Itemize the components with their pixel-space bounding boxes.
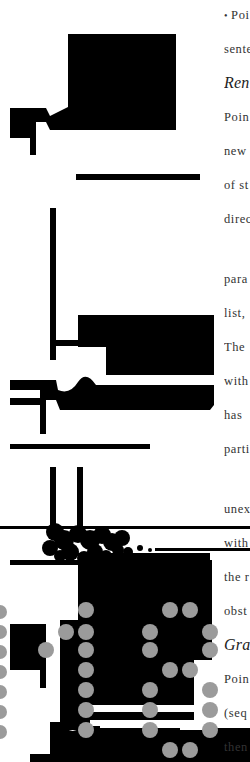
text-line: •Poi: [224, 8, 250, 23]
text-line: list,: [224, 306, 245, 321]
text-line: (seq: [224, 706, 247, 721]
text-line: para: [224, 272, 248, 287]
text-line: then: [224, 740, 248, 755]
text-line: sente: [224, 42, 250, 57]
text-line: The: [224, 340, 245, 355]
section-heading: Ren: [224, 74, 249, 92]
text-line: Poin: [224, 110, 249, 125]
text-line: direc: [224, 212, 250, 227]
text-line: obst: [224, 604, 247, 619]
section-heading: Gra: [224, 636, 250, 654]
text-line: Poin: [224, 672, 249, 687]
text-line: new: [224, 144, 247, 159]
text-line: unex: [224, 502, 250, 517]
text-line: with: [224, 374, 249, 389]
text-line: parti: [224, 442, 250, 457]
body-text-column: •Poi sente Ren Poin new of st direc para…: [224, 0, 250, 762]
figure-diagram: [0, 0, 250, 762]
text-line: the r: [224, 570, 250, 585]
layout-schematic: [0, 0, 250, 762]
text-line: with: [224, 536, 249, 551]
text-line: has: [224, 408, 242, 423]
text-line: of st: [224, 178, 249, 193]
